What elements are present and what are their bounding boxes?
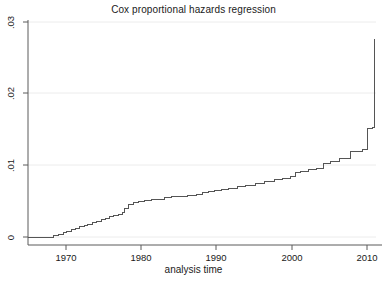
chart-plot-area [0, 0, 387, 285]
chart-container: Cox proportional hazards regression .03 … [0, 0, 387, 285]
y-tick-label-000: 0 [5, 231, 16, 245]
axes [23, 20, 382, 250]
gridlines [28, 22, 376, 237]
x-tick-label-2000: 2000 [281, 252, 302, 263]
y-tick-label-001: .01 [5, 157, 16, 175]
x-tick-label-1980: 1980 [130, 252, 151, 263]
y-tick-label-002: .02 [5, 85, 16, 103]
y-tick-label-003: .03 [5, 14, 16, 32]
x-tick-label-1970: 1970 [55, 252, 76, 263]
hazard-step-curve [28, 39, 374, 237]
x-tick-label-1990: 1990 [205, 252, 226, 263]
x-tick-label-2010: 2010 [356, 252, 377, 263]
x-axis-title: analysis time [0, 264, 387, 275]
